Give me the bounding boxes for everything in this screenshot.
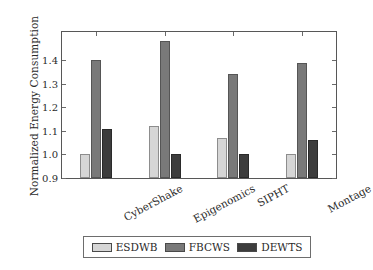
x-axis-tick-top [233,32,234,36]
x-axis-tick-top [165,32,166,36]
y-axis-tick-label: 1.4 [42,55,58,66]
y-axis-title: Normalized Energy Consumption [28,6,40,206]
bar-fbcws-sipht [228,74,238,178]
bar-esdwb-cybershake [80,154,90,178]
x-axis-label-epigenomics: Epigenomics [191,182,257,225]
legend-label-esdwb: ESDWB [116,241,158,253]
y-axis-tick [62,107,66,108]
y-axis-tick-label: 1.0 [42,149,58,160]
x-axis-label-montage: Montage [325,182,372,215]
x-axis-label-sipht: SIPHT [255,182,291,209]
legend-swatch-esdwb [92,243,112,252]
plot-area: 0.91.01.11.21.31.4 [61,31,337,179]
legend-item-esdwb[interactable]: ESDWB [92,241,158,253]
bar-fbcws-montage [297,63,307,178]
bar-esdwb-epigenomics [149,126,159,178]
bar-esdwb-sipht [217,138,227,178]
bar-dewts-sipht [239,154,249,178]
legend-label-dewts: DEWTS [261,241,302,253]
y-axis-tick-right [332,60,336,61]
bar-fbcws-cybershake [91,60,101,178]
y-axis-tick-right [332,131,336,132]
y-axis-tick-label: 1.1 [42,125,58,136]
legend-item-dewts[interactable]: DEWTS [237,241,302,253]
y-axis-tick [62,131,66,132]
legend-label-fbcws: FBCWS [189,241,230,253]
y-axis-tick [62,60,66,61]
chart-legend: ESDWBFBCWSDEWTS [83,236,311,258]
bar-dewts-epigenomics [171,154,181,178]
x-axis-tick-top [302,32,303,36]
y-axis-tick [62,84,66,85]
legend-item-fbcws[interactable]: FBCWS [165,241,230,253]
legend-swatch-fbcws [165,243,185,252]
y-axis-tick-right [332,178,336,179]
y-axis-tick-label: 1.3 [42,78,58,89]
bar-fbcws-epigenomics [160,41,170,178]
y-axis-tick-label: 0.9 [42,173,58,184]
y-axis-tick [62,178,66,179]
bar-dewts-cybershake [102,129,112,178]
y-axis-tick [62,154,66,155]
bar-dewts-montage [308,140,318,178]
y-axis-tick-right [332,107,336,108]
plot-inner: 0.91.01.11.21.31.4 [62,32,336,178]
x-axis-label-cybershake: CyberShake [122,182,185,223]
y-axis-tick-right [332,84,336,85]
legend-swatch-dewts [237,243,257,252]
y-axis-tick-label: 1.2 [42,102,58,113]
x-axis-tick-top [96,32,97,36]
bar-esdwb-montage [286,154,296,178]
y-axis-tick-right [332,154,336,155]
